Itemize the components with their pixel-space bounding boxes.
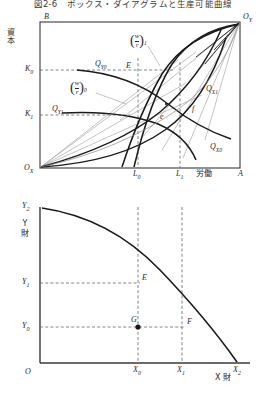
isoquant-label-QY1-upper: QY1 <box>52 105 64 115</box>
tick-label-K0: K0 <box>25 65 33 75</box>
price-ratio-wr1: (wr)1 <box>130 33 147 49</box>
price-ratio-wr0: (wr)0 <box>70 80 87 96</box>
isoquant-label-QX0: QX0 <box>210 143 222 153</box>
box-vertical-axis-label: 資本 <box>5 28 13 44</box>
ppf-horizontal-axis-label: X 財 <box>215 374 231 382</box>
point-label-G-ppf: G <box>131 316 137 324</box>
ppf-vertical-axis-label: Y財 <box>17 219 33 239</box>
tick-label-X0: X0 <box>133 366 141 376</box>
tick-label-Y1: Y1 <box>22 278 29 288</box>
ppf-guide-lines <box>40 207 184 363</box>
isoquant-label-QY0-upper: QY0 <box>95 60 107 70</box>
corner-label-B: B <box>44 13 49 21</box>
isoquant-label-QX1: QX1 <box>206 85 218 95</box>
tick-label-L0: L0 <box>133 170 140 180</box>
tick-label-Y0: Y0 <box>22 322 29 332</box>
isoquant-QX0 <box>41 38 226 167</box>
tick-label-K1: K1 <box>25 110 33 120</box>
ppf-axes <box>40 207 250 363</box>
corner-label-A: A <box>238 170 243 178</box>
point-label-E-box: E <box>126 62 131 70</box>
box-horizontal-axis-label: 労働 <box>196 170 212 178</box>
box-point-markers <box>165 103 167 105</box>
figure-root: 図2-6 ボックス・ダイアグラムと生産可能曲線 <box>0 0 266 393</box>
tick-label-L1: L1 <box>176 170 183 180</box>
point-label-E-ppf: E <box>142 274 147 282</box>
corner-label-OX: OX <box>24 164 33 174</box>
point-label-F-ppf: F <box>187 318 192 326</box>
tick-label-X2: X2 <box>233 366 241 376</box>
ppf-point-markers <box>135 324 140 329</box>
ppf-origin-label: O <box>25 368 31 376</box>
corner-label-OY: OY <box>243 13 252 23</box>
ppf-curve <box>42 208 237 362</box>
point-label-e-box: e <box>160 113 164 121</box>
point-G-marker <box>135 324 140 329</box>
point-label-f-box: f <box>192 105 194 113</box>
figure-canvas <box>0 0 266 393</box>
tick-label-Y2: Y2 <box>22 202 29 212</box>
tick-label-X1: X1 <box>177 366 185 376</box>
